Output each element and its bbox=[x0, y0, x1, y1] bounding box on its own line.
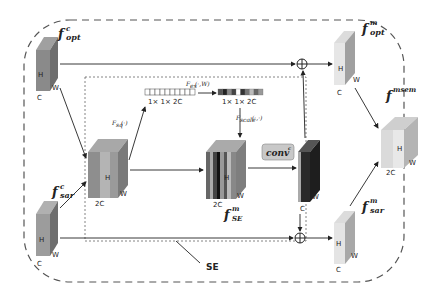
squeezed-cell bbox=[150, 89, 155, 95]
vec2-dim: 1× 1× 2C bbox=[222, 98, 257, 106]
concat-feature-block: H W 2C bbox=[88, 139, 128, 208]
f-opt-m-label: f bbox=[361, 21, 370, 36]
squeezed-cell bbox=[180, 89, 185, 95]
svg-text:C: C bbox=[37, 260, 42, 268]
svg-text:(·): (·) bbox=[121, 119, 128, 126]
squeezed-cell bbox=[175, 89, 180, 95]
svg-text:H: H bbox=[105, 174, 110, 182]
svg-text:H: H bbox=[224, 174, 229, 182]
excited-cell bbox=[250, 89, 255, 95]
svg-text:W: W bbox=[353, 76, 360, 84]
svg-text:W: W bbox=[52, 251, 59, 259]
svg-text:H: H bbox=[38, 71, 43, 79]
svg-text:H: H bbox=[397, 145, 402, 153]
excited-cell bbox=[245, 89, 250, 95]
svg-text:H: H bbox=[39, 236, 44, 244]
svg-text:opt: opt bbox=[66, 32, 81, 42]
svg-text:opt: opt bbox=[370, 27, 385, 37]
squeezed-cell bbox=[145, 89, 150, 95]
f-msem-block: H W 2C bbox=[381, 117, 418, 177]
svg-text:c: c bbox=[288, 145, 291, 151]
svg-text:m: m bbox=[370, 18, 377, 27]
svg-text:W: W bbox=[237, 192, 244, 200]
squeezed-cell bbox=[170, 89, 175, 95]
svg-text:msem: msem bbox=[393, 85, 416, 94]
conv-output-block: W C bbox=[298, 140, 320, 213]
svg-text:m: m bbox=[232, 204, 239, 213]
excited-cell bbox=[218, 89, 223, 95]
excited-vector bbox=[218, 89, 263, 95]
excited-cell bbox=[254, 89, 259, 95]
excited-cell bbox=[259, 89, 264, 95]
f-opt-m-block: H W C bbox=[334, 31, 360, 97]
f-opt-c-block: H W C bbox=[36, 37, 59, 102]
excited-cell bbox=[236, 89, 241, 95]
svg-text:C: C bbox=[37, 94, 42, 102]
f-sar-c-label: f bbox=[51, 184, 60, 199]
f-se-m-block: H W 2C bbox=[206, 140, 246, 209]
squeezed-vector bbox=[145, 89, 195, 95]
svg-text:C: C bbox=[337, 89, 342, 97]
squeezed-cell bbox=[155, 89, 160, 95]
f-sar-m-block: H W C bbox=[334, 211, 358, 274]
excited-cell bbox=[227, 89, 232, 95]
svg-text:H: H bbox=[338, 65, 343, 73]
f-opt-c-label: f bbox=[57, 26, 66, 41]
svg-text:W: W bbox=[52, 84, 59, 92]
svg-text:2C: 2C bbox=[386, 169, 395, 177]
f-sar-c-block: H W C bbox=[36, 201, 59, 268]
squeezed-cell bbox=[165, 89, 170, 95]
excited-cell bbox=[241, 89, 246, 95]
svg-text:(·,·): (·,·) bbox=[252, 114, 263, 121]
f-sar-m-label: f bbox=[361, 199, 370, 214]
svg-text:sar: sar bbox=[370, 205, 385, 215]
svg-text:2C: 2C bbox=[213, 201, 222, 209]
svg-text:H: H bbox=[336, 240, 341, 248]
svg-text:2C: 2C bbox=[95, 200, 104, 208]
se-label: SE bbox=[206, 262, 219, 272]
svg-text:C: C bbox=[300, 205, 305, 213]
add-node-top bbox=[297, 59, 307, 69]
svg-text:m: m bbox=[370, 196, 377, 205]
squeezed-cell bbox=[185, 89, 190, 95]
excited-cell bbox=[223, 89, 228, 95]
svg-text:W: W bbox=[409, 159, 416, 167]
squeezed-cell bbox=[190, 89, 195, 95]
add-node-bottom bbox=[295, 233, 305, 243]
squeezed-cell bbox=[160, 89, 165, 95]
excited-cell bbox=[232, 89, 237, 95]
se-fusion-diagram: H W C f c opt H W C f c sar H W 2C 1× 1×… bbox=[0, 0, 440, 303]
f-se-m-label: f bbox=[223, 207, 232, 222]
svg-text:(·,W): (·,W) bbox=[195, 80, 210, 87]
svg-text:SE: SE bbox=[232, 214, 243, 223]
svg-text:W: W bbox=[351, 252, 358, 260]
conv-label: conv bbox=[266, 148, 290, 158]
vec1-dim: 1× 1× 2C bbox=[148, 98, 183, 106]
svg-text:W: W bbox=[120, 190, 127, 198]
svg-text:C: C bbox=[336, 266, 341, 274]
svg-text:W: W bbox=[312, 193, 319, 201]
